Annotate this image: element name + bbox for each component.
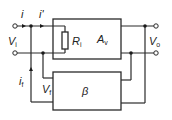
label-vo: Vo — [149, 35, 160, 48]
input-current-arrow-icon — [22, 24, 26, 28]
feedback-amplifier-diagram: i i' Vi Ri Av Vo if Vf β — [0, 0, 172, 120]
label-beta: β — [81, 85, 89, 97]
label-i: i — [21, 8, 24, 20]
input-bottom-node — [41, 51, 45, 55]
label-if: if — [19, 75, 23, 88]
feedback-current-arrow-icon — [29, 67, 33, 71]
input-top-node — [29, 24, 33, 28]
output-terminal-top — [154, 24, 158, 28]
label-i-prime: i' — [39, 8, 44, 20]
amp-current-arrow-icon — [40, 24, 44, 28]
label-vi: Vi — [8, 35, 17, 48]
label-ri: Ri — [72, 35, 82, 48]
input-resistor — [62, 32, 68, 49]
output-terminal-bottom — [154, 51, 158, 55]
label-av: Av — [96, 33, 108, 46]
input-terminal-top — [13, 24, 17, 28]
input-terminal-bottom — [13, 51, 17, 55]
label-vf: Vf — [42, 83, 51, 96]
output-bottom-node — [129, 51, 133, 55]
output-top-node — [143, 24, 147, 28]
